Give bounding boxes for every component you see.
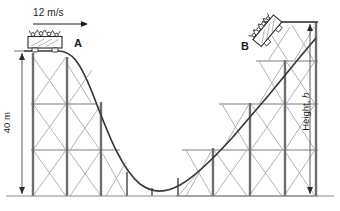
speed-arrow (33, 21, 88, 27)
left-height-dimension (14, 51, 34, 194)
right-truss (152, 22, 318, 196)
left-truss-columns (33, 53, 101, 196)
right-height-label-symbol: h (300, 93, 311, 98)
point-b-label: B (241, 41, 249, 52)
right-truss-short-posts (152, 178, 178, 196)
speed-label: 12 m/s (33, 8, 64, 18)
cart-a-riders (29, 30, 60, 37)
coaster-illustration (0, 0, 340, 211)
roller-coaster-diagram: 12 m/s A B 40 m Height, h (0, 0, 340, 211)
point-a-label: A (74, 38, 82, 49)
right-height-label-text: Height, (300, 98, 311, 131)
cart-a (28, 30, 62, 52)
cart-a-body (28, 37, 62, 49)
left-truss-braces (33, 57, 126, 196)
right-height-label: Height, h (301, 93, 311, 131)
left-truss (31, 53, 127, 196)
left-height-label: 40 m (2, 112, 12, 133)
